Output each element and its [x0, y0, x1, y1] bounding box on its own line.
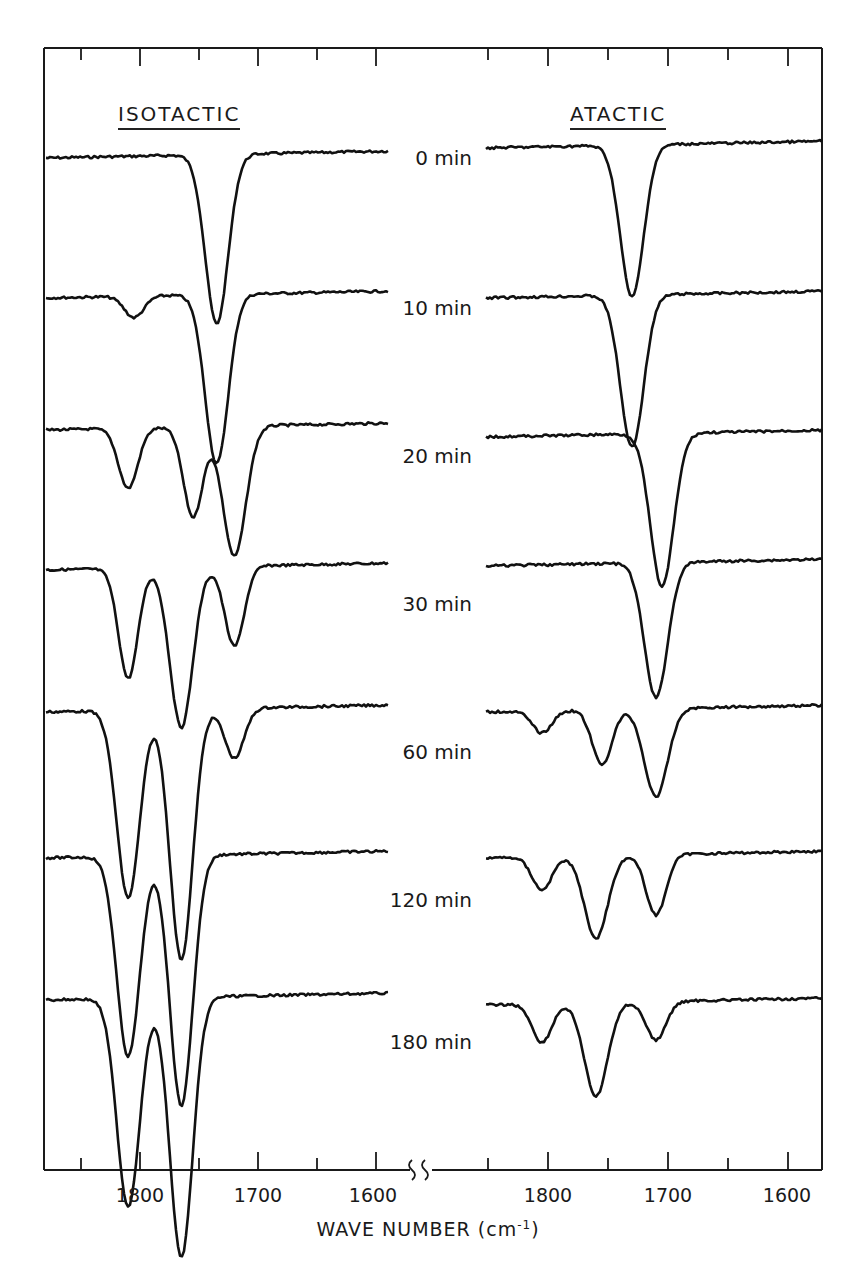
atactic-title: ATACTIC	[570, 102, 666, 130]
time-label-10: 10 min	[372, 296, 472, 320]
isotactic-spectrum-20-min	[46, 422, 388, 555]
atactic-spectrum-0-min	[486, 140, 822, 296]
left-tick-1700: 1700	[234, 1184, 282, 1206]
isotactic-spectrum-60-min	[46, 704, 388, 959]
atactic-spectrum-60-min	[486, 704, 822, 797]
isotactic-spectrum-120-min	[46, 850, 388, 1106]
left-tick-1800: 1800	[116, 1184, 164, 1206]
atactic-spectrum-20-min	[486, 429, 822, 587]
x-axis-title: WAVE NUMBER (cm-1)	[0, 1218, 856, 1240]
left-tick-1600: 1600	[349, 1184, 397, 1206]
right-tick-1600: 1600	[763, 1184, 811, 1206]
atactic-spectrum-180-min	[486, 997, 822, 1096]
time-label-0: 0 min	[372, 146, 472, 170]
time-label-60: 60 min	[372, 740, 472, 764]
atactic-spectrum-10-min	[486, 290, 822, 446]
atactic-spectrum-30-min	[486, 558, 822, 698]
isotactic-title: ISOTACTIC	[118, 102, 240, 130]
ir-spectra-figure: ISOTACTIC ATACTIC 0 min 10 min 20 min 30…	[0, 0, 856, 1274]
isotactic-spectrum-10-min	[46, 290, 388, 463]
right-tick-1700: 1700	[644, 1184, 692, 1206]
time-label-30: 30 min	[372, 592, 472, 616]
isotactic-spectrum-180-min	[46, 992, 388, 1256]
time-label-180: 180 min	[372, 1030, 472, 1054]
right-tick-1800: 1800	[524, 1184, 572, 1206]
atactic-spectrum-120-min	[486, 850, 822, 938]
time-label-20: 20 min	[372, 444, 472, 468]
spectra-plot	[0, 0, 856, 1274]
isotactic-spectrum-30-min	[46, 562, 388, 728]
time-label-120: 120 min	[372, 888, 472, 912]
